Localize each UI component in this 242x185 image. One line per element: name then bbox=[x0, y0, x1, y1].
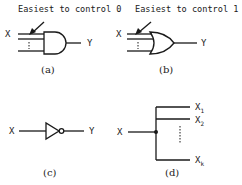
panel-c-input-label: X bbox=[9, 126, 15, 136]
panel-d-input-label: X bbox=[117, 127, 123, 137]
controllability-diagram: Easiest to control 0 X Y (a) Easiest to … bbox=[0, 0, 242, 185]
panel-a-output-label: Y bbox=[87, 38, 93, 48]
panel-b-caption: (b) bbox=[159, 64, 173, 75]
output-label-1: X1 bbox=[195, 102, 204, 114]
panel-b-output-label: Y bbox=[201, 38, 207, 48]
panel-c-caption: (c) bbox=[43, 167, 57, 178]
and-gate-icon bbox=[44, 32, 66, 54]
panel-c: X Y (c) bbox=[9, 123, 95, 178]
panel-b: Easiest to control 1 X Y (b) bbox=[116, 4, 238, 75]
panel-a-caption: (a) bbox=[41, 64, 55, 75]
panel-d: X X1 X2 Xk (d) bbox=[117, 102, 204, 178]
panel-a-title: Easiest to control 0 bbox=[18, 4, 121, 14]
output-label-k: Xk bbox=[195, 155, 204, 167]
output-label-2: X2 bbox=[195, 115, 204, 127]
not-gate-icon bbox=[46, 123, 59, 139]
panel-b-title: Easiest to control 1 bbox=[135, 4, 238, 14]
panel-a-input-label: X bbox=[5, 29, 11, 39]
panel-a: Easiest to control 0 X Y (a) bbox=[5, 4, 121, 75]
panel-d-caption: (d) bbox=[165, 167, 179, 178]
or-gate-icon bbox=[150, 32, 174, 54]
panel-c-output-label: Y bbox=[89, 126, 95, 136]
panel-b-input-label: X bbox=[116, 29, 122, 39]
